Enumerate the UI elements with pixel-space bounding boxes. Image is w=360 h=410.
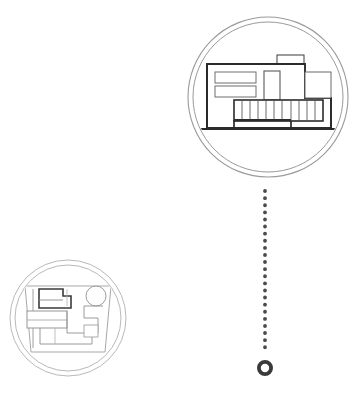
illustration-svg: [0, 0, 360, 410]
right-upper-block: [305, 72, 331, 98]
floor-plan-drawing: [25, 286, 111, 352]
floor-plan-medallion[interactable]: [10, 260, 126, 376]
elevation-drawing: [199, 55, 339, 129]
window-band-top: [215, 72, 256, 83]
plan-room-band: [27, 311, 67, 328]
tall-window: [264, 71, 280, 100]
building-elevation-medallion[interactable]: [188, 17, 348, 177]
terrace-slab: [234, 119, 291, 121]
illustration-canvas: [0, 0, 360, 410]
balcony-railing: [234, 100, 323, 121]
window-band-bottom: [215, 86, 256, 97]
plan-small-room: [84, 325, 98, 337]
connector-end-ring[interactable]: [259, 362, 271, 374]
plan-circle-feature: [86, 286, 106, 306]
